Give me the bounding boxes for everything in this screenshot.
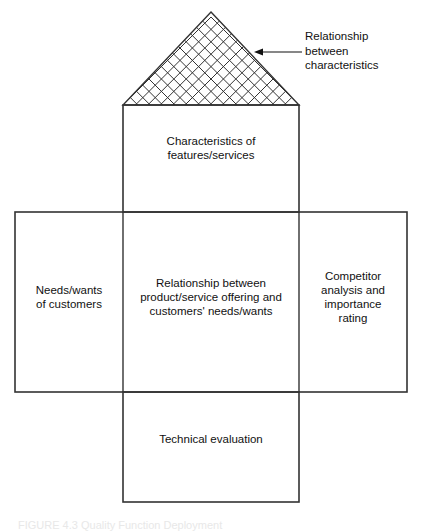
competitor-label: Competitor analysis and importance ratin…	[299, 267, 407, 327]
characteristics-label: Characteristics of features/services	[123, 128, 299, 168]
needs-wants-label: Needs/wants of customers	[15, 281, 123, 313]
roof-annotation-label: Relationship between characteristics	[305, 29, 420, 73]
figure-caption: FIGURE 4.3 Quality Function Deployment	[18, 519, 398, 531]
technical-evaluation-label: Technical evaluation	[123, 430, 299, 448]
relationship-center-label: Relationship between product/service off…	[123, 274, 299, 320]
annotation-arrow-icon	[254, 48, 302, 55]
